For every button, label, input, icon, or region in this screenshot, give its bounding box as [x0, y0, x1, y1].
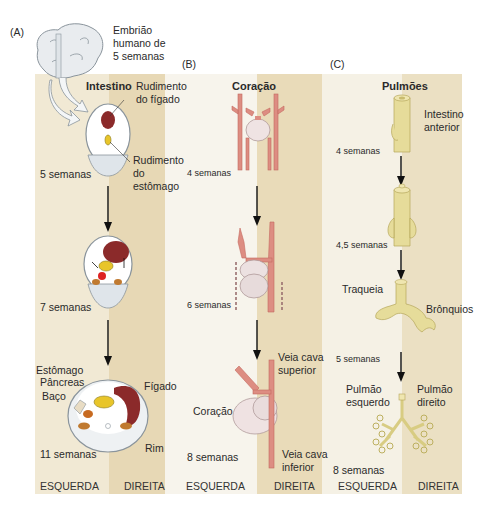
heart-6-weeks [232, 222, 292, 314]
stage-c-4-weeks: 4 semanas [336, 146, 380, 157]
label-kidney: Rim [145, 442, 164, 455]
label-trachea: Traqueia [342, 283, 383, 296]
label-liver-rudiment-2: do fígado [136, 93, 180, 106]
panel-label-b: (B) [182, 58, 196, 71]
embryo-caption-line2: humano de [113, 37, 166, 50]
arrow-down-icon [103, 186, 113, 232]
panel-c-title: Pulmões [382, 80, 428, 93]
stage-c-4-5-weeks: 4,5 semanas [336, 240, 388, 251]
side-left-c: ESQUERDA [338, 480, 397, 492]
label-liver: Fígado [144, 380, 177, 393]
label-stomach: Estômago [36, 364, 83, 377]
curved-arrow-icon [46, 80, 86, 130]
label-foregut-2: anterior [424, 121, 460, 134]
label-spleen: Baço [42, 390, 66, 403]
embryo-caption-line3: 5 semanas [113, 50, 164, 63]
panel-a-title: Intestino [86, 80, 132, 93]
label-svc-2: superior [278, 364, 316, 377]
stage-a-11-weeks: 11 semanas [40, 448, 96, 461]
side-right-b: DIREITA [274, 480, 315, 492]
side-right-a: DIREITA [124, 480, 165, 492]
arrow-down-icon [396, 250, 406, 280]
heart-4-weeks [228, 94, 292, 174]
label-ivc-1: Veia cava [282, 448, 328, 461]
label-stomach-rudiment-1: Rudimento [133, 154, 184, 167]
label-stomach-rudiment-3: estômago [133, 180, 179, 193]
panel-label-c: (C) [330, 58, 345, 71]
label-pancreas: Pâncreas [40, 376, 84, 389]
arrow-down-icon [103, 320, 113, 366]
stage-b-8-weeks: 8 semanas [187, 451, 238, 464]
stage-b-4-weeks: 4 semanas [187, 168, 231, 179]
label-heart: Coração [193, 405, 233, 418]
stage-c-8-weeks: 8 semanas [333, 464, 384, 477]
foregut-4-weeks [392, 94, 412, 154]
arrow-down-icon [252, 320, 262, 360]
stage-a-5-weeks: 5 semanas [40, 168, 91, 181]
arrow-down-icon [396, 156, 406, 186]
stage-c-5-weeks: 5 semanas [336, 354, 380, 365]
panel-b-title: Coração [232, 80, 276, 93]
label-svc-1: Veia cava [278, 351, 324, 364]
side-left-b: ESQUERDA [186, 480, 245, 492]
embryo-caption-line1: Embrião [113, 24, 152, 37]
label-ivc-2: inferior [282, 461, 314, 474]
stage-a-7-weeks: 7 semanas [40, 301, 91, 314]
arrow-down-icon [252, 186, 262, 226]
stage-b-6-weeks: 6 semanas [187, 300, 231, 311]
lungs-8-weeks [368, 394, 438, 460]
label-liver-rudiment-1: Rudimento [136, 80, 187, 93]
panel-label-a: (A) [10, 26, 24, 39]
side-left-a: ESQUERDA [40, 480, 99, 492]
side-right-c: DIREITA [418, 480, 459, 492]
label-foregut-1: Intestino [424, 108, 464, 121]
arrow-down-icon [396, 352, 406, 382]
label-stomach-rudiment-2: do [133, 167, 145, 180]
lung-bud-4-5-weeks [384, 184, 420, 248]
label-bronchi: Brônquios [426, 303, 473, 316]
